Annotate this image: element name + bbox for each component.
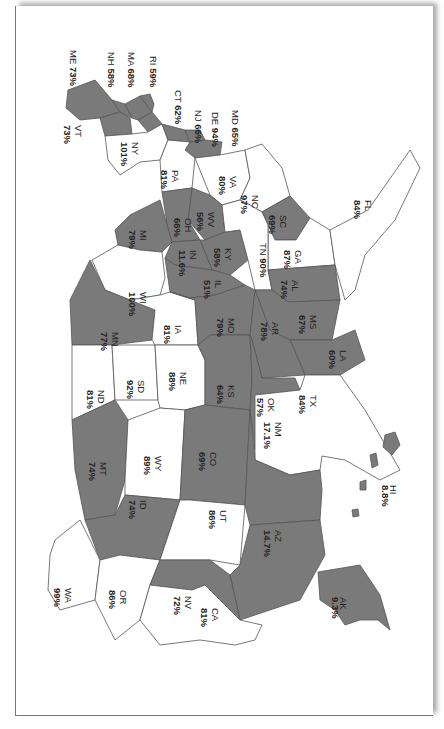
state-code: MT [98, 462, 109, 476]
state-code: PA [170, 170, 181, 183]
state-value: 64% [215, 385, 226, 405]
state-value: 88% [167, 372, 178, 392]
state-code: WI [138, 292, 149, 304]
state-value: 9.3% [330, 597, 341, 619]
state-value: 74% [279, 280, 290, 300]
state-MT [72, 400, 128, 520]
state-value: 92% [125, 380, 136, 400]
state-value: 51% [202, 280, 213, 300]
state-code: OR [118, 590, 129, 604]
state-value: 68% [126, 68, 137, 88]
state-value: 73% [62, 125, 73, 145]
state-value: 84% [297, 395, 308, 415]
state-code: NC [250, 195, 261, 209]
state-value: 99% [52, 588, 63, 608]
state-code: DE [210, 112, 221, 128]
state-label-vt: VT73% [62, 125, 84, 145]
state-value: 79% [127, 230, 138, 250]
state-WY [125, 408, 185, 500]
state-value: 69% [267, 215, 278, 235]
state-code: ME [68, 50, 79, 67]
state-HI-4 [352, 509, 359, 517]
state-code: OK [266, 398, 277, 412]
state-value: 74% [87, 462, 98, 482]
state-code: KY [223, 248, 234, 261]
state-label-hi: HI8.8% [380, 485, 399, 507]
state-value: 8.8% [380, 485, 391, 507]
state-code: NJ [193, 110, 204, 124]
state-value: 58% [106, 68, 117, 88]
state-code: WY [153, 456, 164, 472]
state-HI-3 [360, 480, 366, 490]
state-code: IL [213, 280, 224, 288]
state-code: NY [130, 142, 141, 156]
state-code: RI [148, 56, 159, 68]
state-code: TN [258, 243, 269, 258]
state-code: CA [210, 608, 221, 622]
state-code: CO [208, 452, 219, 466]
state-code: AZ [273, 530, 284, 542]
state-value: 100% [127, 292, 138, 317]
state-value: 14.7% [262, 530, 273, 557]
state-code: SD [136, 380, 147, 393]
state-code: MS [308, 315, 319, 329]
state-value: 89% [142, 456, 153, 476]
state-code: KS [226, 385, 237, 398]
state-label-nh: NH 58% [106, 52, 117, 88]
state-code: LA [338, 350, 349, 362]
state-code: NE [178, 372, 189, 385]
state-value: 69% [197, 452, 208, 472]
state-value: 86% [107, 590, 118, 610]
state-value: 86% [207, 510, 218, 530]
state-code: MN [110, 332, 121, 347]
state-code: NV [183, 596, 194, 610]
state-code: ID [138, 500, 149, 510]
state-value: 79% [215, 318, 226, 338]
state-value: 59% [148, 68, 159, 88]
state-code: OH [183, 218, 194, 232]
state-label-ri: RI 59% [148, 56, 159, 88]
state-value: 78% [259, 322, 270, 342]
state-label-me: ME 73% [68, 50, 79, 86]
state-value: 60% [327, 350, 338, 370]
state-value: 84% [352, 200, 363, 220]
state-label-de: DE 94% [210, 112, 221, 147]
state-MI [115, 200, 172, 252]
state-value: 77% [99, 332, 110, 352]
state-label-tn: TN 90% [258, 243, 269, 278]
state-code: MO [226, 318, 237, 333]
state-value: 87% [282, 250, 293, 270]
state-code: MD [230, 110, 241, 127]
state-value: 94% [210, 128, 221, 148]
state-value: 74% [127, 500, 138, 520]
state-code: AR [270, 322, 281, 335]
state-value: 81% [199, 608, 210, 628]
state-value: 11.6% [177, 250, 188, 277]
state-code: IN [188, 250, 199, 260]
state-value: 57% [255, 398, 266, 418]
state-value: 81% [162, 325, 173, 345]
state-code: MA [126, 52, 137, 68]
state-value: 72% [172, 596, 183, 616]
state-value: 66% [172, 218, 183, 238]
state-code: VT [73, 125, 84, 137]
state-value: 17.1% [262, 422, 273, 449]
state-AK [318, 565, 390, 630]
us-map: ME 73%NH 58%MA 68%RI 59%CT 62%NJ 66%DE 9… [0, 0, 444, 729]
state-value: 67% [297, 315, 308, 335]
state-code: NM [273, 422, 284, 437]
state-label-ma: MA 68% [126, 52, 137, 88]
state-code: ND [96, 390, 107, 404]
state-value: 81% [85, 390, 96, 410]
state-code: WA [63, 588, 74, 604]
state-value: 80% [217, 176, 228, 196]
state-label-ct: CT 62% [173, 90, 184, 125]
state-FL [330, 150, 420, 300]
state-value: 81% [159, 170, 170, 190]
state-code: UT [218, 510, 229, 523]
state-value: 101% [119, 142, 130, 167]
state-code: NH [106, 52, 117, 68]
state-code: IA [173, 325, 184, 335]
state-value: 65% [230, 127, 241, 147]
state-label-nj: NJ 66% [193, 110, 204, 144]
